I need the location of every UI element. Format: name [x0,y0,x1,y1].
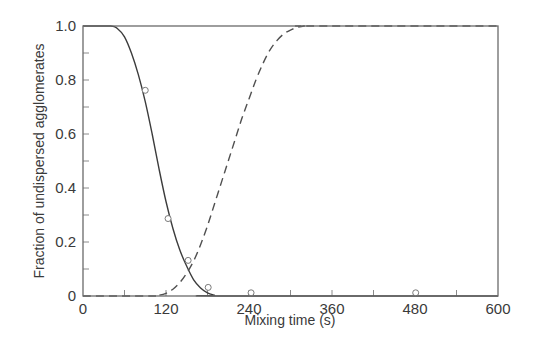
plot-frame [83,26,498,296]
data-point-marker [205,284,211,290]
y-tick-label: 0 [68,287,76,304]
y-axis-title: Fraction of undispersed agglomerates [31,43,47,278]
undispersed-curve-solid [83,26,498,296]
dispersed-curve-dashed [83,26,498,296]
y-tick-label: 0.4 [55,179,76,196]
data-point-marker [413,290,419,296]
y-tick-label: 0.2 [55,233,76,250]
data-point-marker [142,87,148,93]
data-markers [142,87,418,295]
y-tick-label: 1.0 [55,17,76,34]
tick-labels: 012024036048060000.20.40.60.81.0 [55,17,510,317]
data-point-marker [185,257,191,263]
plot-svg: 012024036048060000.20.40.60.81.0 Mixing … [0,0,534,350]
data-point-marker [165,216,171,222]
curves [83,26,498,296]
x-axis-title: Mixing time (s) [244,312,335,328]
y-tick-label: 0.8 [55,71,76,88]
ticks [83,53,457,296]
data-point-marker [248,290,254,296]
x-tick-label: 480 [402,300,427,317]
x-tick-label: 0 [79,300,87,317]
chart: 012024036048060000.20.40.60.81.0 Mixing … [0,0,534,350]
x-tick-label: 600 [485,300,510,317]
y-tick-label: 0.6 [55,125,76,142]
x-tick-label: 120 [153,300,178,317]
